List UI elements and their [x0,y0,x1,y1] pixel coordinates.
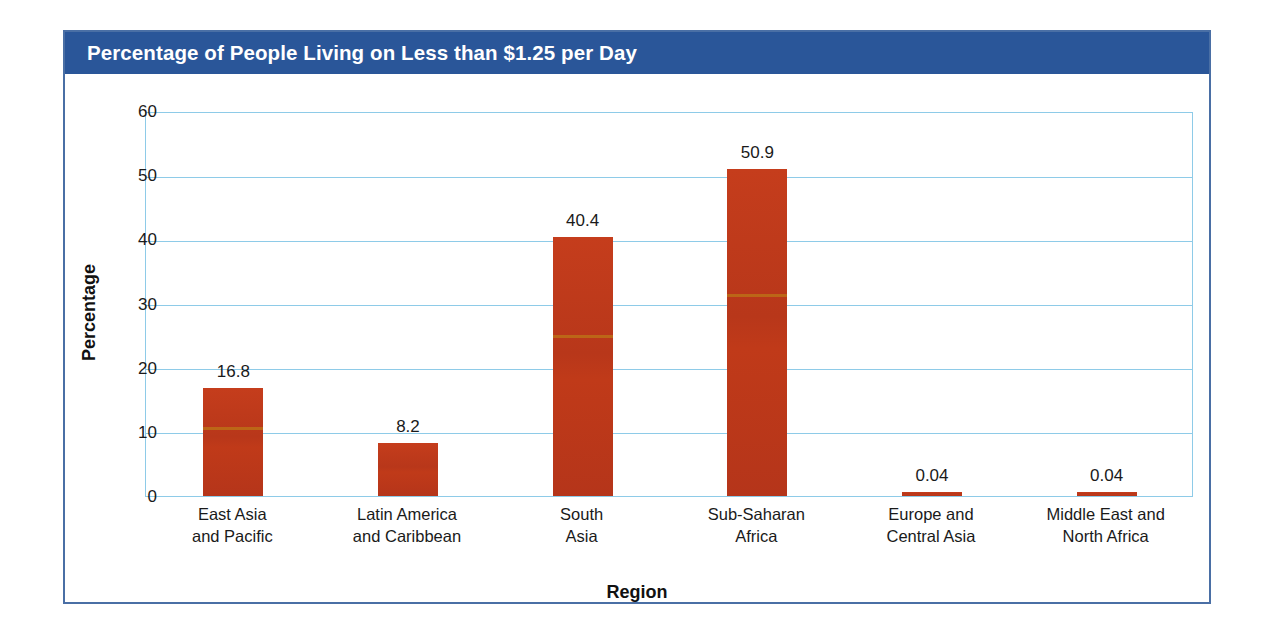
x-category-label: Latin Americaand Caribbean [320,504,495,548]
bar-slot: 0.04 [1019,113,1194,496]
x-category-label-line: East Asia [145,504,320,526]
x-category-label-line: Latin America [320,504,495,526]
y-tick-label: 60 [111,102,157,122]
bar-value-label: 50.9 [741,143,774,163]
x-category-label-line: and Caribbean [320,526,495,548]
x-category-label-line: South [494,504,669,526]
bar-slot: 40.4 [495,113,670,496]
bar[interactable] [1077,492,1137,496]
bar-slot: 0.04 [845,113,1020,496]
y-tick-label: 20 [111,359,157,379]
plot-area: 16.88.240.450.90.040.04 [145,112,1193,497]
x-category-label: Sub-SaharanAfrica [669,504,844,548]
y-tick-label: 50 [111,166,157,186]
y-tick-label: 10 [111,423,157,443]
bar-slot: 8.2 [321,113,496,496]
chart-body: Percentage 16.88.240.450.90.040.04 Regio… [65,74,1209,602]
bar-texture-streak [727,294,787,297]
bar-value-label: 0.04 [1090,466,1123,486]
y-tick-label: 30 [111,295,157,315]
bar[interactable] [378,443,438,496]
figure-frame: Percentage of People Living on Less than… [63,30,1211,604]
x-category-label: Europe andCentral Asia [844,504,1019,548]
bar[interactable] [727,169,787,496]
chart-title: Percentage of People Living on Less than… [87,41,637,65]
chart-title-bar: Percentage of People Living on Less than… [65,32,1209,74]
x-category-label-line: Africa [669,526,844,548]
x-category-label-line: Asia [494,526,669,548]
bar-texture-streak [553,335,613,338]
x-category-label-line: Middle East and [1018,504,1193,526]
bar-value-label: 40.4 [566,211,599,231]
bar[interactable] [203,388,263,496]
x-category-label-line: North Africa [1018,526,1193,548]
x-category-label-line: Central Asia [844,526,1019,548]
bar-slot: 50.9 [670,113,845,496]
x-category-label-line: and Pacific [145,526,320,548]
bar[interactable] [553,237,613,496]
bar-value-label: 16.8 [217,362,250,382]
bar-slot: 16.8 [146,113,321,496]
x-category-label: East Asiaand Pacific [145,504,320,548]
x-axis-title: Region [65,582,1209,603]
x-category-label: Middle East andNorth Africa [1018,504,1193,548]
y-axis-title: Percentage [79,253,100,373]
bar-value-label: 0.04 [915,466,948,486]
bar-value-label: 8.2 [396,417,420,437]
bar[interactable] [902,492,962,496]
x-category-label-line: Sub-Saharan [669,504,844,526]
x-category-label-line: Europe and [844,504,1019,526]
bar-texture-streak [203,427,263,430]
y-tick-label: 40 [111,230,157,250]
x-category-label: SouthAsia [494,504,669,548]
